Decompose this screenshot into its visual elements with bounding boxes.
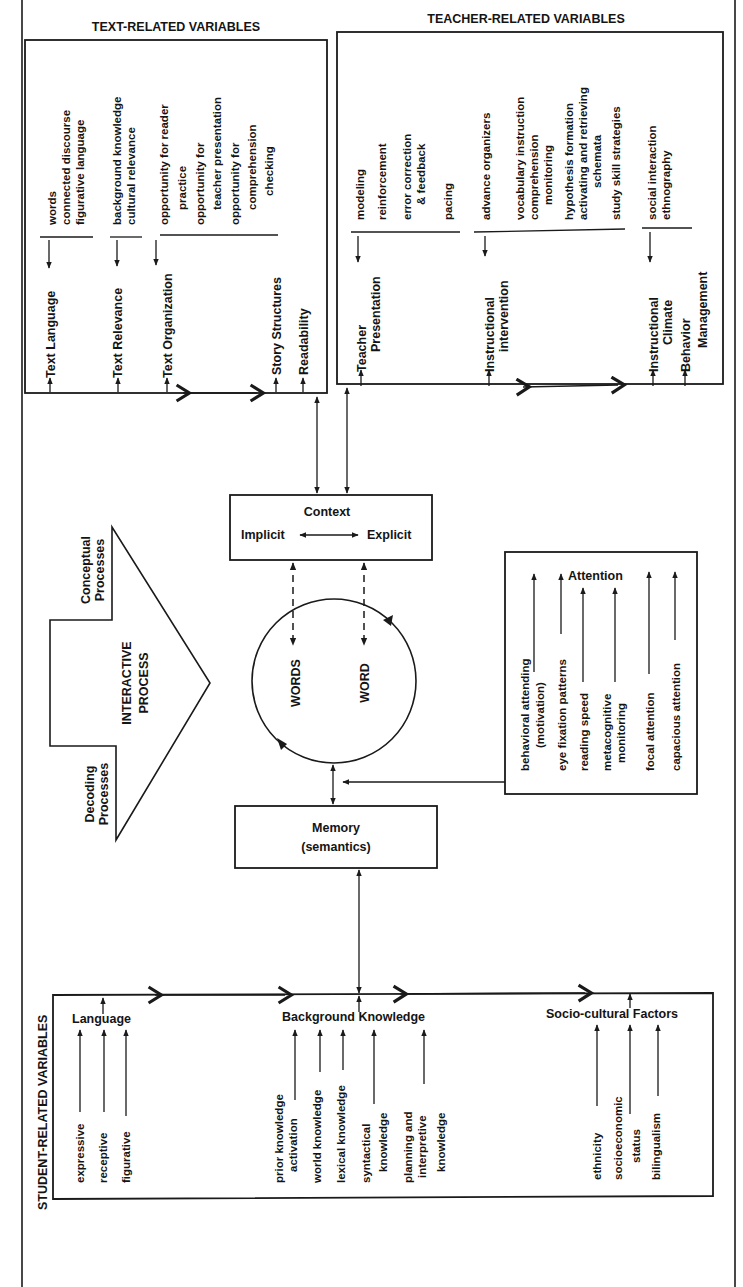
memory-box <box>235 806 437 868</box>
student-box-right-arrow <box>400 993 585 994</box>
item: reinforcement <box>376 143 388 220</box>
item: checking <box>263 146 275 196</box>
text-relevance-group: Text Relevance background knowledge cult… <box>110 97 142 392</box>
words-label: WORDS <box>289 659 303 707</box>
socio-item: status <box>630 1129 642 1163</box>
words-cycle-group: WORDS WORD <box>252 599 416 763</box>
text-related-heading: TEXT-RELATED VARIABLES <box>92 20 260 34</box>
attention-item: reading speed <box>578 693 590 771</box>
attention-item: eye fixation patterns <box>556 659 568 771</box>
readability-label: Readability <box>297 308 311 375</box>
behavior-management-group: Behavior Management <box>679 271 710 386</box>
background-item: prior knowledge <box>273 1094 285 1183</box>
background-item: lexical knowledge <box>335 1085 347 1183</box>
language-item: expressive <box>74 1124 86 1183</box>
attention-item: monitoring <box>615 703 627 763</box>
item: figurative language <box>74 120 86 225</box>
cycle-arrow-icon <box>277 738 287 750</box>
item: connected discourse <box>60 110 72 225</box>
text-language-label: Text Language <box>44 291 58 378</box>
socio-item: socioeconomic <box>612 1096 624 1180</box>
item: cultural relevance <box>125 127 137 225</box>
item: monitoring <box>542 145 554 205</box>
attention-item: metacognitive <box>601 694 613 771</box>
teacher-box-bidirectional-arrow <box>523 385 618 387</box>
socio-item: bilingualism <box>650 1113 662 1180</box>
item: modeling <box>354 169 366 220</box>
background-item: activation <box>287 1118 299 1172</box>
language-title: Language <box>72 1012 131 1026</box>
item: schemata <box>591 134 603 188</box>
text-related-section: TEXT-RELATED VARIABLES Text Language wor… <box>25 20 327 393</box>
context-box-group: Context Implicit Explicit <box>230 495 432 560</box>
item: opportunity for <box>229 142 241 225</box>
teacher-related-section: TEACHER-RELATED VARIABLES Teacher Presen… <box>337 12 723 387</box>
item: pacing <box>442 183 454 220</box>
attention-item: behavioral attending <box>519 659 531 771</box>
behavior-management-label: Behavior <box>679 318 693 372</box>
item: social interaction <box>646 125 658 220</box>
background-item: interpretive <box>416 1115 428 1178</box>
item: teacher presentation <box>211 97 223 210</box>
context-explicit-label: Explicit <box>367 528 412 542</box>
attention-item: capacious attention <box>670 663 682 771</box>
background-knowledge-group: Background Knowledge prior knowledge act… <box>273 996 447 1184</box>
item: activating and retrieving <box>577 87 589 220</box>
context-implicit-label: Implicit <box>241 528 286 542</box>
item: background knowledge <box>111 97 123 225</box>
socio-item: ethnicity <box>591 1132 603 1180</box>
story-structures-label: Story Structures <box>270 277 284 375</box>
text-organization-label: Text Organization <box>161 273 175 378</box>
item: opportunity for <box>194 142 206 225</box>
socio-cultural-group: Socio-cultural Factors ethnicity socioec… <box>546 994 678 1180</box>
instructional-intervention-label-line2: intervention <box>497 280 511 352</box>
background-item: knowledge <box>377 1113 389 1172</box>
divider <box>474 229 625 232</box>
background-item: world knowledge <box>311 1090 323 1184</box>
language-item: figurative <box>120 1131 132 1183</box>
background-item: syntactical <box>360 1124 372 1183</box>
text-relevance-label: Text Relevance <box>111 288 125 378</box>
memory-title: Memory <box>312 821 360 835</box>
item: hypothesis formation <box>563 103 575 220</box>
teacher-presentation-group: Teacher Presentation modeling reinforcem… <box>351 134 460 386</box>
teacher-presentation-label-line2: Presentation <box>369 276 383 352</box>
story-structures-group: Story Structures <box>270 277 284 392</box>
item: opportunity for reader <box>158 104 170 225</box>
instructional-intervention-group: Instructional intervention advance organ… <box>474 87 625 386</box>
item: study skill strategies <box>610 106 622 220</box>
socio-cultural-title: Socio-cultural Factors <box>546 1007 678 1021</box>
student-related-section: STUDENT-RELATED VARIABLES Language expre… <box>36 993 713 1210</box>
interactive-process-label-line2: PROCESS <box>137 652 151 713</box>
behavior-management-label-line2: Management <box>696 271 710 348</box>
instructional-intervention-label: Instructional <box>483 297 497 372</box>
item: error correction <box>401 134 413 220</box>
item: ethnography <box>660 150 672 220</box>
instructional-climate-label: Instructional <box>647 297 661 372</box>
item: comprehension <box>528 134 540 220</box>
decoding-processes-label: Decoding <box>83 766 97 823</box>
interactive-process-label: INTERACTIVE <box>120 641 134 724</box>
item: & feedback <box>415 143 427 205</box>
attention-box-group: Attention behavioral attending (motivati… <box>343 552 697 794</box>
conceptual-processes-label-line2: Processes <box>93 539 107 602</box>
interactive-process-group: INTERACTIVE PROCESS Conceptual Processes… <box>50 527 210 840</box>
context-title: Context <box>304 505 351 519</box>
background-knowledge-title: Background Knowledge <box>282 1010 425 1024</box>
item: practice <box>176 166 188 210</box>
instructional-climate-label-line2: Climate <box>661 300 675 345</box>
attention-item: focal attention <box>644 692 656 771</box>
background-item: knowledge <box>435 1113 447 1172</box>
reading-model-diagram: TEXT-RELATED VARIABLES Text Language wor… <box>0 0 743 1287</box>
item: vocabulary instruction <box>514 97 526 220</box>
memory-box-group: Memory (semantics) <box>235 806 437 868</box>
item: comprehension <box>246 124 258 210</box>
item: advance organizers <box>480 113 492 220</box>
memory-subtitle: (semantics) <box>301 840 370 854</box>
item: words <box>46 191 58 226</box>
decoding-processes-label-line2: Processes <box>97 763 111 826</box>
student-related-heading: STUDENT-RELATED VARIABLES <box>36 1015 50 1210</box>
language-item: receptive <box>97 1132 109 1183</box>
readability-group: Readability <box>297 308 311 392</box>
language-group: Language expressive receptive figurative <box>72 998 132 1183</box>
